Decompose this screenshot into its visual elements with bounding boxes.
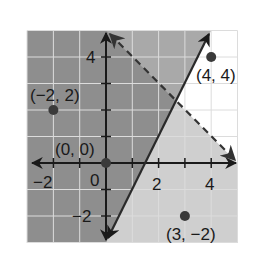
point-origin	[101, 158, 111, 168]
x-tick-0: 0	[90, 171, 99, 190]
point-neg2-2	[48, 105, 58, 115]
y-tick-4: 4	[86, 48, 95, 67]
x-tick-2: 2	[152, 175, 161, 194]
point-3-neg2	[180, 211, 190, 221]
point-4-4	[206, 52, 216, 62]
label-point-origin: (0, 0)	[55, 140, 95, 159]
label-point-3-neg2: (3, −2)	[166, 225, 216, 244]
y-tick-neg2: −2	[72, 207, 91, 226]
label-point-neg2-2: (−2, 2)	[30, 86, 80, 105]
x-tick-4: 4	[205, 175, 214, 194]
x-tick-neg2: −2	[33, 173, 52, 192]
label-point-4-4: (4, 4)	[196, 66, 236, 85]
inequality-graph: (−2, 2) (0, 0) (4, 4) (3, −2) −2 0 2 4 4…	[0, 0, 255, 255]
